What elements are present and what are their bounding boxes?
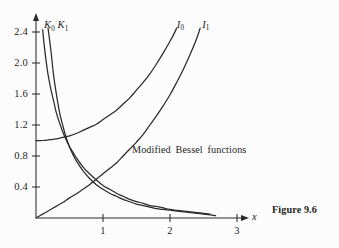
curve-label-k0: K0 [44,20,55,31]
y-axis-tick-label: 0.8 [4,151,28,162]
curve-i1 [36,28,200,218]
x-axis-arrowhead [241,215,249,221]
curve-label-base: K [44,19,51,30]
figure-container: 0.40.81.21.62.02.4123xK0K1I0I1 Modified … [0,0,339,248]
curve-label-subscript: 1 [206,24,210,32]
curve-label-subscript: 1 [65,25,69,33]
curve-k1 [48,28,216,216]
curve-label-base: K [57,19,64,30]
x-axis-label: x [252,212,257,223]
x-axis-tick-label: 2 [167,226,172,237]
y-axis-tick-label: 1.2 [4,120,28,131]
figure-caption: Figure 9.6 [272,205,317,215]
y-axis-tick-label: 0.4 [4,182,28,193]
curve-label-k1: K1 [57,20,68,31]
curves-group [36,28,216,218]
plot-annotation: Modified Bessel functions [132,145,246,155]
curve-i0 [36,28,177,140]
curve-label-i0: I0 [177,20,184,31]
curve-label-subscript: 0 [180,24,184,32]
axes-group [33,13,249,221]
y-axis-tick-label: 2.4 [4,27,28,38]
x-axis-tick-label: 3 [234,226,239,237]
x-axis-tick-label: 1 [100,226,105,237]
y-axis-arrowhead [33,13,39,21]
curve-label-subscript: 0 [51,25,55,33]
y-axis-tick-label: 2.0 [4,58,28,69]
curve-label-i1: I1 [202,20,209,31]
curve-k0 [43,30,211,214]
y-axis-tick-label: 1.6 [4,89,28,100]
